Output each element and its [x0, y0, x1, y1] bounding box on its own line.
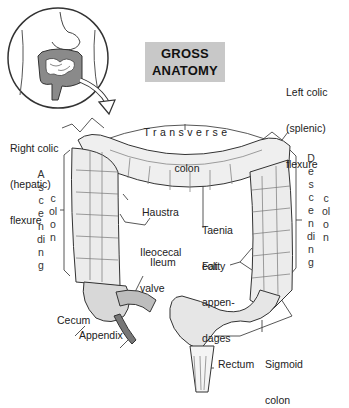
- title-line-2: ANATOMY: [145, 62, 225, 79]
- label-line: Taenia: [202, 224, 233, 236]
- label-line: Transverse: [142, 126, 232, 138]
- label-line: colon: [142, 162, 232, 174]
- label-sigmoid-colon: Sigmoid colon: [265, 334, 303, 408]
- label-fatty-appendages: Fatty appen- dages: [202, 236, 235, 368]
- inset-overview-icon: [8, 8, 108, 108]
- label-line: dages: [202, 332, 235, 344]
- title-line-1: GROSS: [145, 45, 225, 62]
- label-transverse-colon: Transverse colon: [142, 102, 232, 198]
- label-line: colon: [265, 394, 303, 406]
- label-haustra: Haustra: [142, 206, 179, 218]
- label-line: valve: [140, 282, 181, 294]
- title-badge: GROSS ANATOMY: [145, 42, 225, 82]
- label-line: Right colic: [10, 142, 58, 154]
- label-ascending: Ascending: [36, 168, 46, 272]
- label-appendix: Appendix: [79, 329, 123, 341]
- label-line: (hepatic): [10, 178, 58, 190]
- label-line: Left colic: [286, 86, 327, 98]
- label-line: Fatty: [202, 260, 235, 272]
- label-line: appen-: [202, 296, 235, 308]
- label-line: (splenic): [286, 122, 327, 134]
- label-ileum: Ileum: [150, 256, 176, 268]
- label-descending-colon: colon: [321, 192, 331, 244]
- label-descending: Descending: [306, 152, 316, 269]
- label-rectum: Rectum: [218, 358, 254, 370]
- label-cecum: Cecum: [57, 314, 90, 326]
- label-ileocecal-valve: Ileocecal valve: [140, 222, 181, 318]
- label-ascending-colon: colon: [48, 192, 58, 244]
- label-line: Sigmoid: [265, 358, 303, 370]
